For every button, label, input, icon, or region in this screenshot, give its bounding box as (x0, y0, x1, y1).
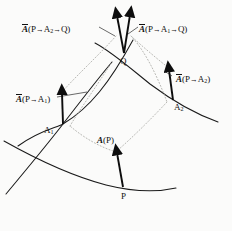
point-label-A1: A1 (44, 126, 54, 135)
vector-A-at-P-shaft (117, 153, 123, 187)
dotted-guides (62, 36, 170, 152)
vector-args-A-to-A2: (P→A2) (182, 74, 210, 84)
vector-args-A-via-A2-to-Q: (P→A2→Q) (28, 24, 70, 34)
leader-right-top (128, 27, 138, 34)
vector-A-via-A2-to-Q-shaft (117, 16, 124, 53)
coordinate-curves (4, 40, 218, 194)
vector-label-A-to-A1: A(P→A1) (16, 94, 50, 104)
vector-A-to-A2-shaft (169, 70, 173, 100)
point-label-P: P (121, 192, 126, 201)
parallel-transport-figure: A(P→A2→Q) A(P→A1→Q) A(P→A2) A(P→A1) A(P)… (0, 0, 232, 231)
overbar-A-glyph: A (22, 24, 28, 34)
vector-label-A-via-A2-to-Q: A(P→A2→Q) (22, 24, 70, 34)
point-label-A2: A2 (174, 103, 184, 112)
curve-P-A1-extended (6, 62, 112, 194)
leader-left-top (99, 27, 115, 36)
vector-args-A-to-A1: (P→A1) (22, 94, 50, 104)
overbar-A-glyph: A (176, 74, 182, 84)
vector-args-A-at-P: (P) (103, 135, 114, 145)
vector-label-A-to-A2: A(P→A2) (176, 74, 210, 84)
guide-Ptip-to-A2 (118, 102, 167, 150)
curve-A1-Q-extended (18, 40, 133, 146)
vector-arrows (62, 15, 173, 187)
vector-A-to-A1-shaft (62, 93, 63, 124)
guide-A1tip-to-Q (62, 36, 116, 92)
overbar-A-glyph: A (16, 94, 22, 104)
figure-canvas (0, 0, 232, 231)
vector-args-A-via-A1-to-Q: (P→A1→Q) (145, 24, 187, 34)
guide-A2tip-to-Q (131, 36, 170, 69)
vector-label-A-via-A1-to-Q: A(P→A1→Q) (139, 24, 187, 34)
point-label-Q: Q (120, 57, 127, 66)
leader-lines (57, 27, 172, 97)
vector-label-A-at-P: A(P) (97, 136, 114, 145)
overbar-A-glyph: A (139, 24, 145, 34)
